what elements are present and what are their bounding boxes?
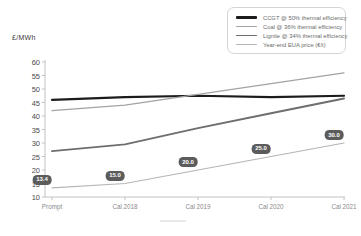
- x-tick-label: Cal 2019: [168, 203, 228, 210]
- legend-label: CCGT @ 50% thermal efficiency: [263, 15, 347, 21]
- y-tick-label: 60: [18, 58, 40, 67]
- y-tick-label: 40: [18, 112, 40, 121]
- footer-mark: [160, 220, 186, 222]
- y-tick-label: 50: [18, 85, 40, 94]
- eua-price-badge: 30.0: [325, 130, 344, 140]
- legend-line-swatch: [236, 44, 257, 45]
- x-tick-label: Cal 2021: [314, 203, 361, 210]
- y-tick-label: 55: [18, 72, 40, 81]
- legend-item: CCGT @ 50% thermal efficiency: [236, 13, 341, 22]
- eua-price-badge: 13.4: [33, 175, 52, 185]
- eua-price-badge: 15.0: [106, 171, 125, 181]
- y-tick-label: 20: [18, 166, 40, 175]
- legend-label: Lignite @ 34% thermal efficiency: [263, 33, 347, 39]
- legend-line-swatch: [236, 26, 257, 27]
- legend-line-swatch: [236, 35, 257, 37]
- y-tick-label: 25: [18, 153, 40, 162]
- y-tick-label: 10: [18, 193, 40, 202]
- y-tick-label: 35: [18, 126, 40, 135]
- legend-item: Lignite @ 34% thermal efficiency: [236, 31, 341, 40]
- eua-price-badge: 25.0: [252, 144, 271, 154]
- series-line: [52, 143, 344, 188]
- x-tick-label: Cal 2020: [241, 203, 301, 210]
- x-tick-label: Prompt: [22, 203, 82, 210]
- y-tick-label: 30: [18, 139, 40, 148]
- series-line: [52, 98, 344, 151]
- eua-price-badge: 20.0: [179, 157, 198, 167]
- legend-item: Coal @ 36% thermal efficiency: [236, 22, 341, 31]
- legend: CCGT @ 50% thermal efficiencyCoal @ 36% …: [227, 7, 346, 54]
- y-tick-label: 45: [18, 99, 40, 108]
- legend-line-swatch: [236, 16, 257, 18]
- series-line: [52, 96, 344, 100]
- legend-item: Year-end EUA price (€/t): [236, 40, 341, 49]
- legend-label: Coal @ 36% thermal efficiency: [263, 24, 342, 30]
- legend-label: Year-end EUA price (€/t): [263, 42, 326, 48]
- x-tick-label: Cal 2018: [95, 203, 155, 210]
- series-line: [52, 73, 344, 111]
